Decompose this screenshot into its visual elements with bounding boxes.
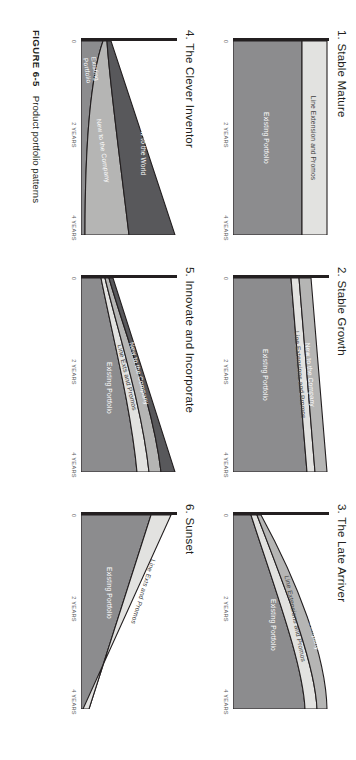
x-tick: 2 YEARS [223, 596, 229, 622]
x-tick: 4 YEARS [71, 689, 77, 715]
plot-area: Existing Portfolio Line Exts and Promos … [81, 275, 177, 471]
area-chart: Existing Portfolio Line Extensions and P… [233, 515, 329, 709]
x-tick: 0 [71, 514, 77, 517]
rotated-page-wrapper: 1. Stable Mature Existing Portfolio Line… [0, 0, 356, 760]
x-tick-labels: 0 2 YEARS 4 YEARS [215, 38, 229, 234]
x-tick-labels: 0 2 YEARS 4 YEARS [215, 512, 229, 708]
figure-number: FIGURE 6-5 [31, 30, 42, 87]
band-label: Line Extension and Promos [310, 95, 317, 180]
area-chart: Existing Portfolio Line Exts and Promos … [81, 278, 177, 472]
panel-title: 6. Sunset [184, 504, 196, 554]
plot-area: Existing Portfolio Line Extensions and P… [233, 512, 329, 708]
x-tick-labels: 0 2 YEARS 4 YEARS [63, 275, 77, 471]
x-tick: 2 YEARS [223, 122, 229, 148]
x-tick: 2 YEARS [223, 359, 229, 385]
panel-the-late-arriver: 3. The Late Arriver Existing Portfolio L… [208, 504, 348, 716]
x-tick-labels: 0 2 YEARS 4 YEARS [215, 275, 229, 471]
panel-title: 4. The Clever Inventor [184, 30, 196, 148]
x-tick-labels: 0 2 YEARS 4 YEARS [63, 38, 77, 234]
panel-title: 3. The Late Arriver [336, 504, 348, 602]
panel-grid: 1. Stable Mature Existing Portfolio Line… [56, 30, 348, 730]
figure-6-5: 1. Stable Mature Existing Portfolio Line… [0, 0, 356, 760]
panel-stable-mature: 1. Stable Mature Existing Portfolio Line… [208, 30, 348, 242]
area-chart: Existing Portfolio Line Extensions and P… [233, 278, 329, 472]
x-tick: 2 YEARS [71, 359, 77, 385]
x-tick: 0 [71, 277, 77, 280]
plot-area: Existing Portfolio Line Exts and Promos [81, 512, 177, 708]
x-tick: 4 YEARS [71, 452, 77, 478]
panel-innovate-and-incorporate: 5. Innovate and Incorporate Existing Por… [56, 267, 196, 479]
x-tick: 0 [71, 40, 77, 43]
panel-stable-growth: 2. Stable Growth Existing Portfolio Line… [208, 267, 348, 479]
x-tick: 4 YEARS [71, 215, 77, 241]
x-tick: 4 YEARS [223, 689, 229, 715]
figure-caption: FIGURE 6-5Product portfolio patterns [31, 30, 42, 730]
x-tick: 0 [223, 277, 229, 280]
x-tick: 0 [223, 40, 229, 43]
area-chart: Existing Portfolio Line Exts and Promos [81, 515, 177, 709]
area-chart: Existing Portfolio New to the Company Ne… [81, 41, 177, 235]
band-label: New to the World [140, 122, 147, 175]
panel-sunset: 6. Sunset Existing Portfolio Line Exts a… [56, 504, 196, 716]
x-tick: 4 YEARS [223, 452, 229, 478]
plot-area: Existing Portfolio Line Extension and Pr… [233, 38, 329, 234]
panel-the-clever-inventor: 4. The Clever Inventor Existing Portfoli… [56, 30, 196, 242]
x-tick: 4 YEARS [223, 215, 229, 241]
band-label: Existing Portfolio [105, 567, 113, 619]
band-label: Existing Portfolio [105, 362, 113, 414]
panel-title: 5. Innovate and Incorporate [184, 267, 196, 413]
figure-caption-text: Product portfolio patterns [31, 96, 42, 203]
plot-area: Existing Portfolio New to the Company Ne… [81, 38, 177, 234]
x-tick: 0 [223, 514, 229, 517]
area-chart: Existing Portfolio Line Extension and Pr… [233, 41, 329, 235]
band-label: Existing Portfolio [269, 599, 277, 651]
plot-area: Existing Portfolio Line Extensions and P… [233, 275, 329, 471]
x-tick: 2 YEARS [71, 596, 77, 622]
panel-title: 2. Stable Growth [336, 267, 348, 356]
panel-title: 1. Stable Mature [336, 30, 348, 118]
band-label: Existing Portfolio [262, 112, 270, 164]
x-tick-labels: 0 2 YEARS 4 YEARS [63, 512, 77, 708]
x-tick: 2 YEARS [71, 122, 77, 148]
band-label: Existing Portfolio [261, 349, 269, 401]
